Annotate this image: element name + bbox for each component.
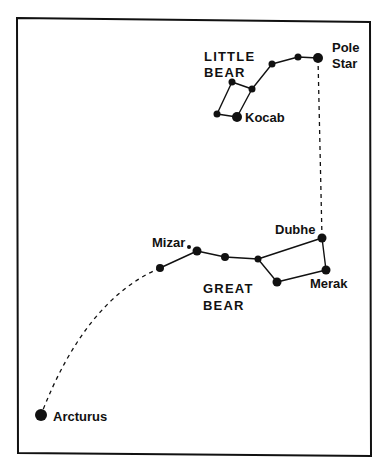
star-gb-bowl-bl: [273, 278, 282, 287]
star-mizar: [193, 247, 202, 256]
star-pole-star: [313, 53, 323, 63]
label-arcturus: Arcturus: [53, 409, 107, 424]
label-dubhe: Dubhe: [275, 222, 315, 237]
star-arcturus: [35, 409, 47, 421]
pointer-line-dubhe-to-pole-star: [318, 58, 322, 238]
star-alcor: [187, 245, 191, 249]
star-lb-3: [269, 61, 276, 68]
star-chart: LITTLEBEARPoleStarKocabDubheMizarMerakGR…: [0, 0, 382, 468]
star-gb-bowl-tl: [255, 256, 262, 263]
label-great-bear: GREATBEAR: [203, 281, 254, 313]
label-merak: Merak: [310, 276, 348, 291]
star-merak: [322, 266, 331, 275]
star-dubhe: [318, 234, 327, 243]
star-lb-2: [295, 54, 302, 61]
star-gb-handle-1: [221, 253, 229, 261]
labels: LITTLEBEARPoleStarKocabDubheMizarMerakGR…: [53, 40, 359, 424]
pointer-line-handle-to-arcturus: [41, 268, 160, 415]
star-kocab: [232, 112, 242, 122]
label-little-bear: LITTLEBEAR: [204, 49, 255, 80]
label-kocab: Kocab: [245, 110, 285, 125]
star-lb-4: [249, 86, 256, 93]
label-mizar: Mizar: [152, 235, 185, 250]
star-gb-handle-end: [156, 264, 164, 272]
label-pole-star: PoleStar: [332, 40, 359, 71]
star-lb-6: [214, 111, 221, 118]
